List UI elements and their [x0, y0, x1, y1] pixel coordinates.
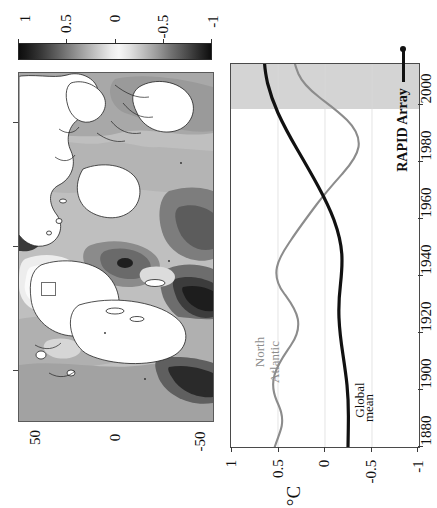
year-label-1900: 1900: [418, 345, 435, 403]
timeseries-curves: [231, 64, 419, 447]
study-region-box: [41, 282, 56, 296]
value-label-neg1: -1: [410, 452, 427, 482]
year-label-1940: 1940: [418, 231, 435, 289]
map-lat-label-neg50: -50: [192, 422, 209, 462]
value-label-neg0p5: -0.5: [363, 450, 380, 494]
series-label-north: North: [252, 324, 268, 380]
colorbar-tick-label-1: 1: [17, 6, 34, 32]
colorbar-tick: [211, 39, 212, 43]
map-image: [19, 73, 213, 421]
value-label-0: 0: [316, 451, 333, 477]
colorbar-tick-label-0: 0: [107, 6, 124, 32]
map-tick: [13, 370, 18, 371]
colorbar-tick-label-0p5: 0.5: [58, 5, 75, 43]
value-axis-title: °C: [283, 479, 305, 508]
colorbar-tick: [18, 39, 19, 43]
year-label-2000: 2000: [418, 60, 435, 118]
timeseries-panel: North Atlantic Global mean RAPID Array 1…: [226, 0, 437, 508]
series-label-mean: mean: [361, 383, 377, 433]
rapid-array-marker-dot: [400, 46, 406, 52]
timeseries-axes: [230, 63, 420, 448]
figure-root: 1 0.5 0 -0.5 -1: [0, 0, 437, 508]
map-panel: 1 0.5 0 -0.5 -1: [0, 0, 226, 508]
map-tick: [13, 122, 18, 123]
value-label-1: 1: [223, 451, 240, 477]
series-label-atlantic: Atlantic: [267, 329, 283, 395]
colorbar-tick-label-neg0p5: -0.5: [155, 5, 172, 49]
year-label-1980: 1980: [418, 117, 435, 175]
colorbar-tick-label-neg1: -1: [205, 7, 222, 37]
colorbar: 1 0.5 0 -0.5 -1: [18, 43, 212, 60]
colorbar-tick: [115, 39, 116, 43]
colorbar-gradient: [18, 43, 212, 60]
map-axes: [18, 72, 214, 422]
year-label-1920: 1920: [418, 288, 435, 346]
year-label-1960: 1960: [418, 174, 435, 232]
map-tick: [13, 246, 18, 247]
map-lat-label-0: 0: [107, 428, 124, 448]
rapid-array-leader-line: [402, 50, 405, 82]
map-lat-label-50: 50: [27, 423, 44, 453]
rapid-array-legend-label: RAPID Array: [395, 76, 411, 184]
